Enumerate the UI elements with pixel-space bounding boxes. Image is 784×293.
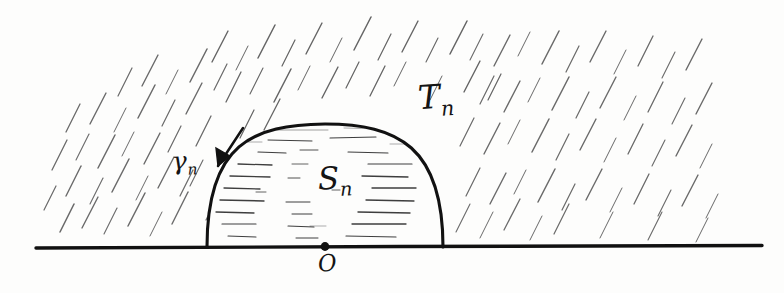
label-exterior-region-T-n: Tn [417,79,455,120]
figure-canvas: Tn γn Sn O [0,0,784,293]
label-boundary-curve-gamma-n: γn [171,147,198,179]
label-T-base: T [416,77,441,117]
label-S-base: S [317,160,339,197]
label-S-sub: n [340,178,353,201]
interior-shading [216,128,416,238]
label-T-sub: n [440,95,455,120]
label-interior-region-S-n: Sn [317,162,352,200]
label-gamma-sub: n [187,160,198,178]
label-O-base: O [317,249,338,277]
label-origin-O: O [317,251,338,276]
real-axis-line [36,246,762,249]
diagram-svg [0,0,784,293]
label-gamma-base: γ [171,146,187,176]
